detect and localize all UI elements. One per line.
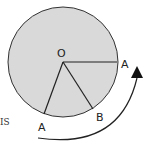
rotation-diagram: O A A B IS (0, 0, 149, 147)
label-a-right: A (121, 58, 129, 71)
label-o: O (57, 47, 66, 60)
arrowhead-icon (131, 66, 143, 78)
label-b: B (96, 111, 104, 124)
diagram-svg: O A A B IS (0, 0, 149, 147)
label-a-bottom: A (38, 121, 46, 134)
side-text: IS (0, 117, 10, 127)
